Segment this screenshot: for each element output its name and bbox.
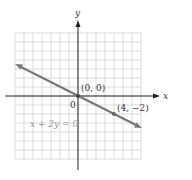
equation-label: x + 2y = 0 — [30, 119, 78, 129]
point-label-origin: (0, 0) — [81, 83, 105, 93]
point-4-neg2 — [112, 112, 116, 116]
x-axis-arrow-icon — [153, 94, 160, 99]
point-label-4-neg2: (4, −2) — [117, 103, 149, 113]
origin-label: 0 — [70, 100, 76, 110]
x-axis-label: x — [163, 91, 168, 101]
y-axis-arrow-icon — [76, 20, 81, 27]
point-origin — [76, 94, 80, 98]
graph: x y 0 (0, 0) (4, −2) x + 2y = 0 — [0, 0, 192, 180]
y-axis-label: y — [74, 8, 81, 18]
